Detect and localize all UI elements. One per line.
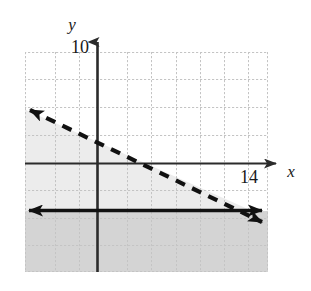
x-tick-label-14: 14 [240, 167, 258, 187]
y-axis-label: y [66, 15, 76, 34]
coordinate-plane-svg: y 10 14 x [0, 0, 311, 291]
region-below-solid [25, 211, 268, 272]
x-axis-label: x [286, 162, 295, 181]
graph-figure: y 10 14 x [0, 0, 311, 291]
y-tick-label-10: 10 [71, 37, 89, 57]
